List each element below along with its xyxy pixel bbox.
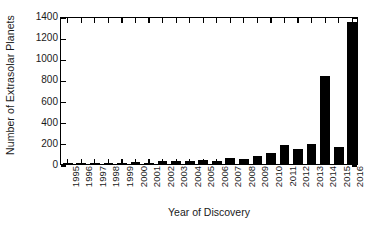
x-axis-tick — [67, 18, 68, 23]
y-axis-tick — [352, 123, 357, 124]
x-axis-tick — [189, 18, 190, 23]
y-tick-label: 600 — [18, 97, 58, 107]
x-axis-tick — [311, 18, 312, 23]
x-axis-tick — [162, 159, 163, 164]
x-axis-tick — [257, 159, 258, 164]
y-tick-label: 400 — [18, 118, 58, 128]
x-axis-tick — [203, 159, 204, 164]
x-axis-tick — [243, 159, 244, 164]
y-axis-tick — [61, 123, 66, 124]
y-axis-tick-labels: 0200400600800100012001400 — [18, 12, 58, 170]
x-axis-tick — [81, 159, 82, 164]
x-axis-tick — [243, 18, 244, 23]
x-axis-tick — [230, 18, 231, 23]
bar-series — [61, 18, 357, 164]
x-tick-label: 2001 — [152, 166, 162, 206]
y-tick-label: 1200 — [18, 33, 58, 43]
x-axis-tick — [162, 18, 163, 23]
x-axis-tick — [135, 18, 136, 23]
y-tick-label: 1000 — [18, 54, 58, 64]
x-axis-tick — [352, 18, 353, 23]
y-tick-label: 1400 — [18, 12, 58, 22]
x-tick-label: 1998 — [111, 166, 121, 206]
x-tick-label: 2015 — [342, 166, 352, 206]
x-tick-label: 2011 — [288, 166, 298, 206]
y-axis-tick — [352, 144, 357, 145]
x-tick-label: 2016 — [355, 166, 365, 206]
x-axis-tick — [176, 159, 177, 164]
x-tick-label: 2002 — [166, 166, 176, 206]
y-tick-label: 800 — [18, 75, 58, 85]
x-tick-label: 2007 — [233, 166, 243, 206]
x-axis-tick — [121, 159, 122, 164]
x-axis-tick — [94, 159, 95, 164]
x-axis-tick — [176, 18, 177, 23]
plot-area — [60, 17, 358, 165]
x-axis-tick — [270, 159, 271, 164]
x-axis-tick — [338, 18, 339, 23]
x-axis-tick — [338, 159, 339, 164]
x-axis-tick — [108, 18, 109, 23]
y-axis-title: Number of Extrasolar Planets — [0, 0, 20, 170]
x-axis-tick — [148, 18, 149, 23]
x-tick-label: 2010 — [274, 166, 284, 206]
y-axis-tick — [61, 17, 66, 18]
y-axis-tick — [61, 144, 66, 145]
y-tick-label: 0 — [18, 160, 58, 170]
x-tick-label: 1995 — [71, 166, 81, 206]
x-axis-tick — [108, 159, 109, 164]
x-tick-label: 2009 — [260, 166, 270, 206]
x-axis-tick — [216, 159, 217, 164]
x-tick-label: 2008 — [247, 166, 257, 206]
x-axis-tick — [121, 18, 122, 23]
x-axis-tick — [135, 159, 136, 164]
x-tick-label: 2012 — [301, 166, 311, 206]
exoplanet-discovery-bar-chart: Number of Extrasolar Planets 02004006008… — [0, 0, 374, 227]
x-tick-label: 2000 — [139, 166, 149, 206]
x-tick-label: 2005 — [206, 166, 216, 206]
y-tick-label: 200 — [18, 139, 58, 149]
x-axis-tick — [270, 18, 271, 23]
y-axis-tick — [61, 81, 66, 82]
y-axis-tick — [352, 102, 357, 103]
y-axis-tick — [352, 60, 357, 61]
x-axis-tick — [81, 18, 82, 23]
x-tick-label: 2014 — [328, 166, 338, 206]
x-axis-tick — [216, 18, 217, 23]
y-axis-tick — [352, 81, 357, 82]
y-axis-title-text: Number of Extrasolar Planets — [4, 15, 16, 155]
x-axis-tick — [148, 159, 149, 164]
x-axis-tick — [297, 18, 298, 23]
y-axis-tick — [61, 39, 66, 40]
y-axis-tick — [61, 102, 66, 103]
x-axis-tick — [189, 159, 190, 164]
x-axis-tick — [352, 159, 353, 164]
x-axis-tick — [203, 18, 204, 23]
x-axis-tick — [94, 18, 95, 23]
x-axis-title: Year of Discovery — [60, 206, 358, 218]
y-axis-tick — [352, 39, 357, 40]
x-axis-tick — [230, 159, 231, 164]
x-tick-label: 2003 — [179, 166, 189, 206]
x-tick-label: 2006 — [220, 166, 230, 206]
x-axis-tick — [284, 18, 285, 23]
x-axis-tick — [325, 159, 326, 164]
x-tick-label: 1996 — [84, 166, 94, 206]
x-axis-tick — [325, 18, 326, 23]
x-tick-label: 2013 — [315, 166, 325, 206]
x-axis-tick — [67, 159, 68, 164]
x-tick-label: 2004 — [193, 166, 203, 206]
x-tick-label: 1997 — [98, 166, 108, 206]
bar — [320, 76, 330, 164]
x-axis-tick — [311, 159, 312, 164]
x-axis-tick — [284, 159, 285, 164]
x-axis-tick-labels: 1995199619971998199920002001200220032004… — [60, 166, 358, 206]
x-tick-label: 1999 — [125, 166, 135, 206]
bar — [347, 22, 357, 164]
x-axis-tick — [297, 159, 298, 164]
x-axis-tick — [257, 18, 258, 23]
y-axis-tick — [61, 60, 66, 61]
